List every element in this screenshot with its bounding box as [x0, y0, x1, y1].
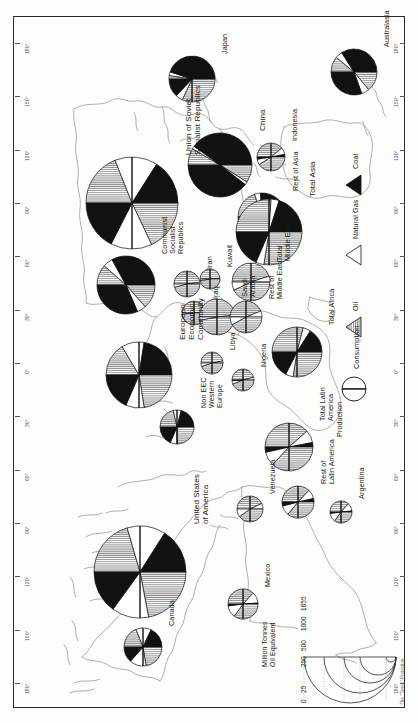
pie-body [201, 352, 223, 374]
legend-natural-gas [341, 245, 367, 269]
region-label: Non EEC Western Europe [200, 377, 224, 408]
graticule-tick [400, 576, 405, 577]
pie-body [160, 410, 194, 444]
region-label: European Economic Community [178, 298, 205, 340]
projection-credit: The "Times" Projection [400, 659, 405, 706]
graticule-tick [400, 203, 405, 204]
graticule-tick [15, 43, 20, 44]
pie-chart [103, 339, 175, 411]
legend-natural-gas-label: Natural Gas [352, 200, 360, 239]
longitude-tick-label: 120° [24, 577, 30, 588]
graticule-tick [15, 576, 20, 577]
longitude-tick-label: 60° [393, 473, 399, 481]
graticule-tick [15, 470, 20, 471]
pie-slice [177, 427, 194, 444]
region-label: Communist Socialist Republics [161, 217, 185, 254]
graticule-tick [400, 630, 405, 631]
graticule-tick [400, 43, 405, 44]
region-label: Libya [229, 332, 237, 350]
consumption-key-label: Consumption [353, 326, 361, 369]
longitude-tick-label: 90° [24, 526, 30, 534]
graticule-tick [15, 683, 20, 684]
region-label: Canada [168, 600, 176, 626]
region-label: Japan [221, 34, 229, 54]
pie-body [106, 342, 172, 408]
longitude-tick-label: 180° [24, 43, 30, 54]
pie-body [330, 501, 352, 523]
graticule-tick [15, 523, 20, 524]
longitude-tick-label: 30° [393, 313, 399, 321]
legend-coal [341, 175, 367, 199]
region-label: China [258, 109, 267, 131]
region-label: Saudi Arabia [241, 276, 257, 297]
graticule-tick [400, 310, 405, 311]
graticule-tick [15, 256, 20, 257]
pie-chart [269, 324, 325, 380]
region-label: Rest of Middle East [268, 260, 284, 299]
pie-chart [229, 366, 257, 394]
pie-body [237, 496, 263, 522]
longitude-tick-label: 120° [393, 150, 399, 161]
region-label: Iraq [212, 286, 220, 299]
pie-body [124, 628, 162, 666]
pie-body [230, 301, 262, 333]
graticule-tick [400, 416, 405, 417]
scale-value-label: 1000 [300, 616, 307, 631]
region-label: Argentina [358, 467, 366, 499]
region-label: Australasia [383, 10, 391, 47]
longitude-tick-label: 30° [24, 313, 30, 321]
legend-oil-label: Oil [352, 302, 360, 311]
region-label: United States of America [192, 474, 210, 524]
region-label: Rest of Latin America [320, 439, 336, 484]
longitude-tick-label: 180° [24, 683, 30, 694]
longitude-tick-label: 0° [393, 369, 399, 374]
scale-value-label: 250 [300, 656, 307, 667]
region-label: Total Middle East [276, 222, 292, 261]
pie-chart [198, 349, 226, 377]
longitude-tick-label: 30° [24, 420, 30, 428]
scale-value-label: 500 [300, 640, 307, 651]
longitude-tick-label: 30° [393, 420, 399, 428]
production-key-label: Production [336, 402, 344, 437]
pie-slice [139, 375, 172, 408]
longitude-tick-label: 150° [24, 630, 30, 641]
region-label: Total Latin America [319, 387, 335, 421]
scale-value-label: 25 [300, 686, 307, 693]
graticule-tick [400, 150, 405, 151]
graticule-tick [15, 96, 20, 97]
map-frame: Union of Soviet Socialist RepublicsChina… [13, 16, 405, 708]
region-label: Indonesia [291, 109, 299, 141]
longitude-tick-label: 180° [393, 43, 399, 54]
pie-chart [254, 140, 288, 174]
graticule-tick [400, 523, 405, 524]
graticule-tick [15, 203, 20, 204]
legend-coal-label: Coal [352, 154, 360, 169]
pie-body [272, 327, 322, 377]
graticule-tick [400, 363, 405, 364]
graticule-tick [15, 150, 20, 151]
scale-title: Million Tonnes Oil Equivalent [261, 621, 278, 667]
scale-value-label: 1655 [300, 596, 307, 611]
graticule-tick [15, 416, 20, 417]
pie-chart [121, 625, 165, 669]
scale-value-label: 0 [300, 699, 307, 703]
production-consumption-key [340, 375, 368, 407]
graticule-tick [400, 256, 405, 257]
graticule-tick [15, 630, 20, 631]
graticule-tick [400, 96, 405, 97]
pie-body [97, 256, 155, 314]
longitude-tick-label: 150° [24, 97, 30, 108]
graticule-tick [15, 363, 20, 364]
pie-slice [139, 342, 172, 375]
region-label: Total Africa [328, 289, 336, 325]
longitude-tick-label: 60° [393, 260, 399, 268]
pie-body [257, 143, 285, 171]
region-label: Total Asia [308, 161, 317, 197]
map-figure: Union of Soviet Socialist RepublicsChina… [0, 0, 418, 723]
pie-chart [234, 493, 266, 525]
pie-chart [233, 196, 305, 268]
longitude-tick-label: 150° [393, 97, 399, 108]
longitude-tick-label: 120° [24, 150, 30, 161]
pie-body [331, 49, 377, 95]
region-label: Union of Soviet Socialist Republics [184, 85, 202, 155]
